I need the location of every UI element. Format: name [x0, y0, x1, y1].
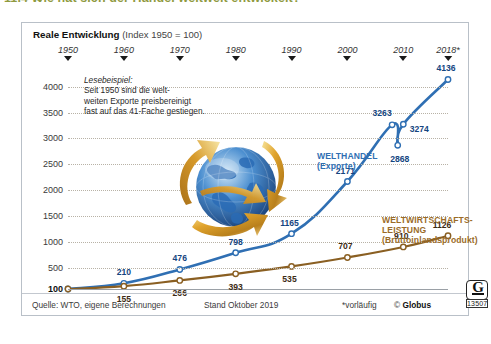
note-title: Lesebeispiel: — [84, 75, 132, 85]
note-line-1: Seit 1950 sind die welt- — [84, 85, 170, 95]
data-point-marker — [233, 250, 238, 255]
page-title: 11.4 Wie hat sich der Handel weltweit en… — [4, 0, 301, 5]
x-axis-tick-1980: 1980 — [226, 45, 246, 61]
gridline-100 — [68, 289, 448, 290]
y-axis-label-3000: 3000 — [43, 133, 63, 143]
x-axis-tick-marker-icon — [176, 56, 184, 61]
x-axis-tick-label: 1970 — [170, 45, 190, 55]
chart-subtitle-strong: Reale Entwicklung — [33, 29, 120, 40]
y-axis-label-4000: 4000 — [43, 82, 63, 92]
y-axis-label-1000: 1000 — [43, 237, 63, 247]
x-axis-tick-marker-icon — [444, 56, 452, 61]
data-point-marker — [345, 179, 350, 184]
x-axis-tick-label: 1960 — [114, 45, 134, 55]
data-label-3274: 3274 — [410, 124, 429, 134]
x-axis-tick-1960: 1960 — [114, 45, 134, 61]
data-point-marker — [177, 278, 182, 283]
x-axis-tick-1950: 1950 — [58, 45, 78, 61]
note-line-2: weiten Exporte preisbereinigt — [84, 96, 191, 106]
globus-logo: G 13507 — [466, 280, 490, 310]
x-axis-tick-label: 2018* — [436, 45, 460, 55]
data-label-4136: 4136 — [436, 63, 455, 73]
x-axis-tick-label: 1980 — [226, 45, 246, 55]
data-label-3263: 3263 — [373, 108, 392, 118]
chart-subtitle-rest: (Index 1950 = 100) — [122, 29, 202, 40]
data-point-marker — [401, 122, 406, 127]
x-axis-year-labels: 19501960197019801990200020102018* — [22, 45, 470, 69]
data-label-393: 393 — [228, 282, 242, 292]
x-axis-tick-marker-icon — [232, 56, 240, 61]
callout-brown-line-3: (Bruttoinlandsprodukt) — [382, 235, 478, 245]
data-label-476: 476 — [173, 253, 187, 263]
x-axis-tick-1970: 1970 — [170, 45, 190, 61]
footer-stand: Stand Oktober 2019 — [204, 300, 278, 310]
callout-blue-line-2: (Exporte) — [317, 161, 356, 171]
chart-card: Reale Entwicklung (Index 1950 = 100) 195… — [21, 22, 469, 316]
chart-subtitle: Reale Entwicklung (Index 1950 = 100) — [33, 29, 202, 40]
x-axis-tick-2010: 2010 — [393, 45, 413, 61]
series-callout-welthandel: WELTHANDEL (Exporte) — [317, 151, 378, 171]
footer-source: Quelle: WTO, eigene Berechnungen — [32, 300, 166, 310]
series-callout-weltwirtschaftsleistung: WELTWIRTSCHAFTS- LEISTUNG (Bruttoinlands… — [382, 215, 478, 246]
reading-example-note: Lesebeispiel: Seit 1950 sind die welt- w… — [84, 75, 234, 117]
copyright-mark: © — [394, 300, 400, 310]
x-axis-tick-marker-icon — [343, 56, 351, 61]
data-label-535: 535 — [282, 274, 296, 284]
note-line-3: fast auf das 41-Fache gestiegen. — [84, 106, 205, 116]
y-axis-label-500: 500 — [48, 263, 63, 273]
x-axis-tick-label: 1990 — [282, 45, 302, 55]
y-axis-label-3500: 3500 — [43, 108, 63, 118]
data-point-marker — [445, 77, 450, 82]
x-axis-tick-1990: 1990 — [282, 45, 302, 61]
y-axis-label-2500: 2500 — [43, 159, 63, 169]
x-axis-tick-2018: 2018* — [436, 45, 460, 61]
x-axis-tick-2000: 2000 — [337, 45, 357, 61]
globus-logo-number: 13507 — [466, 299, 488, 308]
y-axis-label-1500: 1500 — [43, 211, 63, 221]
infographic-root: 11.4 Wie hat sich der Handel weltweit en… — [0, 0, 491, 344]
data-point-marker — [233, 271, 238, 276]
footer-provisional-note: *vorläufig — [342, 300, 377, 310]
x-axis-tick-label: 1950 — [58, 45, 78, 55]
page-heading-strip: 11.4 Wie hat sich der Handel weltweit en… — [0, 0, 491, 9]
footer-copyright: © Globus — [394, 300, 431, 310]
callout-brown-line-2: LEISTUNG — [382, 225, 426, 235]
data-label-707: 707 — [338, 241, 352, 251]
callout-blue-line-1: WELTHANDEL — [317, 151, 378, 161]
x-axis-tick-marker-icon — [120, 56, 128, 61]
x-axis-tick-marker-icon — [288, 56, 296, 61]
globus-logo-box: G — [466, 280, 488, 300]
x-axis-tick-marker-icon — [399, 56, 407, 61]
x-axis-tick-label: 2010 — [393, 45, 413, 55]
data-label-210: 210 — [117, 267, 131, 277]
data-point-marker — [345, 255, 350, 260]
globe-with-arrows-icon — [172, 131, 300, 243]
globus-logo-bar — [472, 293, 484, 295]
data-point-marker — [389, 122, 394, 127]
x-axis-tick-label: 2000 — [337, 45, 357, 55]
chart-footer: Quelle: WTO, eigene Berechnungen Stand O… — [22, 293, 470, 315]
callout-brown-line-1: WELTWIRTSCHAFTS- — [382, 215, 473, 225]
copyright-name: Globus — [402, 300, 431, 310]
data-point-marker — [395, 143, 400, 148]
x-axis-tick-marker-icon — [64, 56, 72, 61]
data-label-2868: 2868 — [390, 154, 409, 164]
y-axis-label-2000: 2000 — [43, 185, 63, 195]
